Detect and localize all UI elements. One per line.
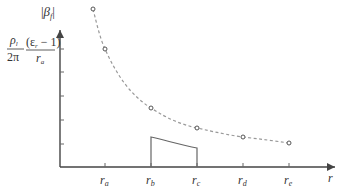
svg-text:rb: rb (146, 173, 155, 188)
marker-rd (241, 135, 245, 139)
svg-text:rc: rc (192, 173, 201, 188)
svg-text:rd: rd (238, 173, 248, 188)
svg-text:re: re (284, 173, 293, 188)
diagram-canvas: |βf| ρl 2π (εr − 1) ra ra rb rc rd re r (0, 0, 341, 188)
marker-x0 (91, 7, 95, 11)
y-marker-expression: ρl 2π (εr − 1) ra (7, 33, 61, 66)
svg-text:(εr − 1): (εr − 1) (26, 35, 61, 50)
svg-text:2π: 2π (7, 50, 19, 64)
marker-rc (195, 126, 199, 130)
x-tick-labels: ra rb rc rd re (100, 173, 293, 188)
bound-charge-block (151, 137, 197, 167)
beta-curve (93, 9, 289, 143)
curve-markers (91, 7, 291, 145)
marker-ra (103, 47, 107, 51)
y-axis-label: |βf| (41, 4, 55, 21)
x-axis-label: r (328, 171, 333, 185)
marker-re (287, 141, 291, 145)
svg-text:ra: ra (100, 173, 109, 188)
svg-text:ρl: ρl (9, 33, 18, 48)
svg-text:ra: ra (36, 51, 45, 66)
marker-rb (149, 106, 153, 110)
